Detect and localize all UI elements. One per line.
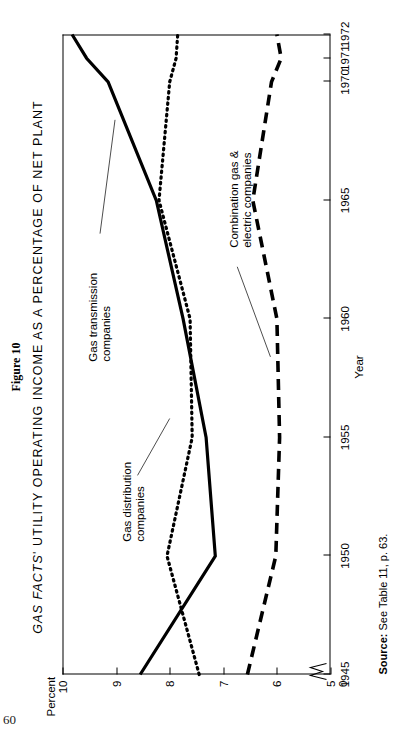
x-axis-tick (324, 199, 331, 200)
x-axis-tick (324, 33, 331, 34)
figure-title: GAS FACTS' UTILITY OPERATING INCOME AS A… (31, 0, 45, 735)
x-axis-tick (324, 57, 331, 58)
series-annotation-line: companies (134, 462, 147, 542)
y-axis-tick-label: 5 (325, 681, 337, 705)
series-annotation-2: Combination gas &electric companies (228, 151, 254, 248)
x-axis-tick (324, 673, 331, 674)
x-axis-tick (324, 555, 331, 556)
source-label: Source: (377, 634, 389, 675)
y-axis-tick-label: 9 (110, 681, 122, 705)
x-axis-tick-label: 1970 (339, 69, 351, 95)
x-axis-tick-label: 1965 (339, 188, 351, 214)
series-annotation-line: electric companies (241, 151, 254, 248)
x-axis-line (329, 35, 330, 675)
rotated-figure-container: Figure 10 GAS FACTS' UTILITY OPERATING I… (1, 0, 420, 735)
x-axis-tick-label: 1960 (339, 306, 351, 332)
plot-area: 1945195019551960196519701971197256789100… (63, 35, 331, 675)
y-axis-tick-label: 6 (271, 681, 283, 705)
figure-title-italic-part: GAS FACTS (31, 554, 45, 634)
x-axis-tick (324, 81, 331, 82)
figure-page: 60 Figure 10 GAS FACTS' UTILITY OPERATIN… (0, 0, 420, 735)
source-text: See Table 11, p. 63. (377, 534, 389, 631)
series-annotation-line: companies (100, 273, 113, 362)
source-note: Source: See Table 11, p. 63. (377, 534, 389, 675)
x-axis-title: Year (353, 0, 365, 735)
x-axis-tick (324, 436, 331, 437)
x-axis-tick-label: 1950 (339, 543, 351, 569)
x-axis-tick-label: 1955 (339, 425, 351, 451)
y-axis-break-icon (308, 660, 332, 682)
x-axis-tick-label: 1971 (339, 45, 351, 71)
y-axis-tick (170, 668, 171, 675)
y-axis-tick (331, 668, 332, 675)
series-annotation-line: Gas distribution (120, 462, 133, 542)
y-axis-tick-label: 8 (164, 681, 176, 705)
y-axis-label: Percent (45, 677, 57, 717)
y-axis-tick (63, 668, 64, 675)
series-annotation-1: Gas distributioncompanies (120, 462, 146, 542)
figure-title-rest: ' UTILITY OPERATING INCOME AS A PERCENTA… (31, 100, 45, 554)
figure-number: Figure 10 (9, 0, 24, 735)
x-axis-tick (324, 318, 331, 319)
series-annotation-line: Gas transmission (87, 273, 100, 362)
y-axis-tick-label: 7 (217, 681, 229, 705)
y-axis-tick (277, 668, 278, 675)
y-axis-tick (223, 668, 224, 675)
x-axis-tick-label: 1972 (339, 22, 351, 48)
series-annotation-line: Combination gas & (228, 151, 241, 248)
y-axis-tick-label: 10 (57, 681, 69, 705)
y-axis-zero-label: 0 (337, 681, 349, 705)
series-annotation-0: Gas transmissioncompanies (87, 273, 113, 362)
y-axis-tick (116, 668, 117, 675)
